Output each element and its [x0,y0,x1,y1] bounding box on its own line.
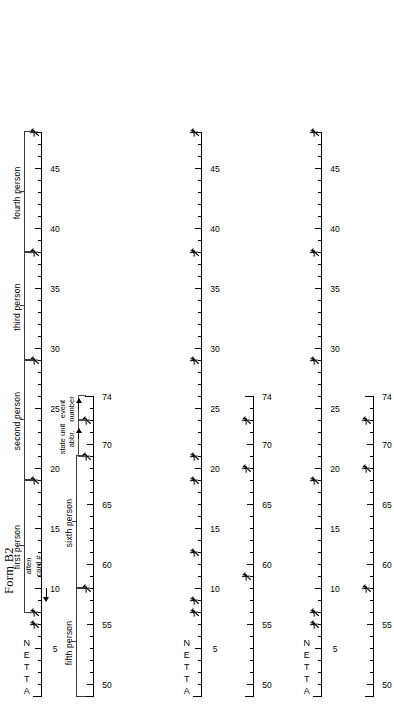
field-label: state unitabbr. [58,423,76,455]
tick-mark [318,540,322,541]
tick-mark [198,576,202,577]
tick-label-50: 50 [379,680,394,690]
tick-mark [90,660,94,661]
tick-label-60: 60 [379,560,394,570]
tick-mark [35,288,42,289]
tick-mark [318,144,322,145]
tick-mark [38,180,42,181]
tick-mark [195,288,202,289]
callout-arrow [78,399,79,409]
tick-mark [315,168,322,169]
tick-mark [250,516,254,517]
tick-label-40: 40 [207,224,223,234]
tick-label-45: 45 [207,164,223,174]
tick-label-30: 30 [47,344,63,354]
tick-mark [250,648,254,649]
tick-mark [250,612,254,613]
tick-label-15: 15 [207,524,223,534]
tick-label-10: 10 [327,584,343,594]
tick-mark [315,588,322,589]
tick-mark [318,204,322,205]
tick-mark [85,696,94,697]
tick-mark [198,540,202,541]
tick-mark [38,384,42,385]
tick-mark [318,300,322,301]
tick-mark [250,408,254,409]
form-page: Form B2 51015202530354045ATTENfirst pers… [0,0,394,706]
tick-mark [315,348,322,349]
tick-mark [195,588,202,589]
tick-label-70: 70 [379,440,394,450]
tick-mark [367,444,374,445]
tick-mark [318,552,322,553]
tick-mark [87,624,94,625]
tick-mark [195,228,202,229]
tick-mark [318,600,322,601]
tick-mark [250,540,254,541]
tick-mark [195,408,202,409]
tick-label-74: 74 [259,392,275,402]
tick-mark [198,384,202,385]
person-bracket [76,587,86,697]
tick-mark [318,420,322,421]
field-label-line2: abbr. [67,431,76,448]
tick-mark [370,600,374,601]
person-bracket-label: fourth person [12,133,22,253]
tick-mark [250,552,254,553]
atten-letter: E [21,650,33,660]
tick-mark [370,516,374,517]
tick-mark [318,396,322,397]
handwritten-mark [309,128,320,137]
tick-label-5: 5 [327,644,343,654]
handwritten-mark [241,416,252,425]
atten-letter: N [21,638,33,648]
tick-mark [35,348,42,349]
tick-mark [250,480,254,481]
tick-mark [315,468,322,469]
handwritten-mark [309,248,320,257]
tick-mark [90,600,94,601]
tick-mark [318,240,322,241]
tick-mark [367,564,374,565]
atten-letter: T [301,674,313,684]
tick-mark [318,324,322,325]
field-label-line1: event [58,400,67,418]
tick-mark [35,468,42,469]
tick-mark [38,144,42,145]
tick-mark [38,540,42,541]
handwritten-mark [361,584,372,593]
ruler-upper: 51015202530354045ATTEN [298,130,344,700]
tick-mark [250,660,254,661]
tick-mark [38,204,42,205]
tick-mark [87,504,94,505]
tick-mark [315,288,322,289]
tick-mark [198,264,202,265]
tick-mark [318,384,322,385]
tick-mark [198,372,202,373]
atten-card-line2: card # [34,556,43,577]
tick-mark [195,528,202,529]
tick-mark [90,528,94,529]
tick-mark [87,564,94,565]
tick-mark [250,672,254,673]
tick-mark [250,432,254,433]
tick-mark [247,624,254,625]
atten-letter: T [181,662,193,672]
atten-letter: T [181,674,193,684]
person-bracket [76,455,86,589]
tick-mark [198,144,202,145]
atten-letter: T [21,662,33,672]
axis-line [373,396,374,697]
tick-mark [38,276,42,277]
tick-mark [318,336,322,337]
tick-label-65: 65 [259,500,275,510]
atten-field-letters: ATTEN [180,628,202,700]
tick-mark [35,228,42,229]
tick-mark [198,336,202,337]
tick-mark [318,564,322,565]
tick-mark [90,552,94,553]
tick-mark [198,312,202,313]
tick-mark [38,456,42,457]
ruler-lower: 505560657074fifth personsixth personstat… [70,394,116,700]
tick-mark [247,444,254,445]
